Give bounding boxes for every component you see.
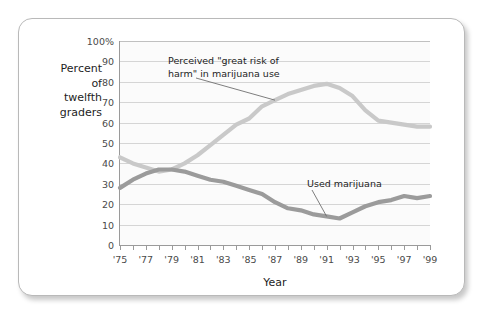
chart-figure: Percent of twelfth graders 100% 90 80 70… xyxy=(0,0,487,319)
risk-annotation-leader-line xyxy=(196,78,275,100)
risk-annotation-label: Perceived "great risk of harm" in mariju… xyxy=(168,55,280,80)
used-annotation-label: Used marijuana xyxy=(307,178,382,191)
series-line-used-marijuana xyxy=(120,170,430,219)
series-line-perceived-risk xyxy=(120,84,430,172)
series-layer xyxy=(0,0,487,319)
